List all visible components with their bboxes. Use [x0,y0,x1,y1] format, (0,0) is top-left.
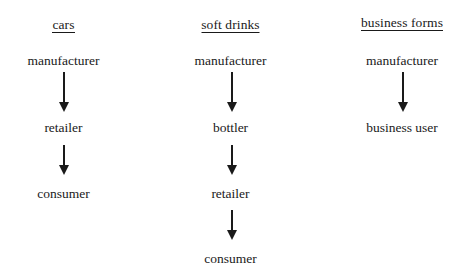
node-cars-manufacturer: manufacturer [0,53,141,69]
arrow-down-icon [402,72,404,103]
node-cars-consumer: consumer [0,186,141,202]
arrow-down-icon [231,210,233,231]
column-header-business-forms: business forms [324,15,463,31]
channel-column-soft-drinks: soft drinks manufacturer bottler retaile… [155,0,307,277]
node-soft-drinks-manufacturer: manufacturer [155,53,307,69]
column-header-soft-drinks: soft drinks [155,17,307,33]
node-soft-drinks-retailer: retailer [155,186,307,202]
node-business-forms-manufacturer: manufacturer [324,53,463,69]
distribution-channel-diagram: cars manufacturer retailer consumer soft… [0,0,463,277]
channel-column-business-forms: business forms manufacturer business use… [307,0,463,277]
node-soft-drinks-bottler: bottler [155,120,307,136]
arrow-down-icon [63,145,65,166]
channel-column-cars: cars manufacturer retailer consumer [0,0,155,277]
node-cars-retailer: retailer [0,120,141,136]
arrow-down-icon [63,72,65,103]
column-header-label: soft drinks [201,17,259,33]
node-business-forms-business-user: business user [324,120,463,136]
column-header-label: cars [52,17,74,33]
arrow-down-icon [231,145,233,166]
arrow-down-icon [231,72,233,103]
column-header-cars: cars [0,17,141,33]
column-header-label: business forms [361,15,443,31]
node-soft-drinks-consumer: consumer [155,251,307,267]
